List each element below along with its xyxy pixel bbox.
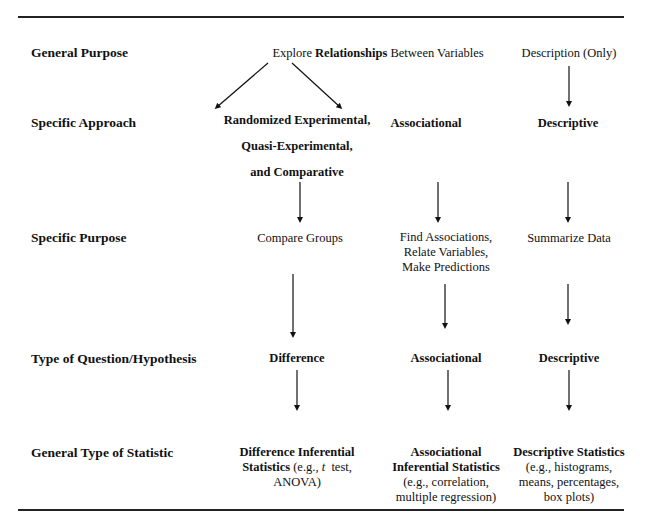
associational-statistics-text: Associational Inferential Statistics (e.… [392, 445, 500, 505]
bottom-rule [18, 509, 624, 511]
descriptive-approach-text: Descriptive [538, 115, 598, 132]
find-associations-text: Find Associations, Relate Variables, Mak… [400, 230, 492, 275]
row-label-specific-approach: Specific Approach [31, 115, 136, 131]
explore-relationships-text: Explore Relationships Between Variables [272, 45, 483, 62]
row-label-general-purpose: General Purpose [31, 45, 128, 61]
row-label-question-type: Type of Question/Hypothesis [31, 351, 197, 367]
experimental-approach-text: Randomized Experimental, Quasi-Experimen… [224, 107, 371, 185]
descriptive-question-text: Descriptive [539, 350, 599, 367]
top-rule [18, 16, 624, 18]
summarize-data-text: Summarize Data [527, 230, 611, 247]
difference-statistics-text: Difference Inferential Statistics (e.g.,… [239, 445, 354, 490]
row-label-specific-purpose: Specific Purpose [31, 230, 127, 246]
associational-approach-text: Associational [391, 115, 462, 132]
arrow-to-experimental [217, 63, 268, 107]
description-only-text: Description (Only) [522, 45, 617, 62]
row-label-statistic-type: General Type of Statistic [31, 445, 173, 461]
arrow-to-associational [292, 63, 340, 107]
difference-question-text: Difference [269, 350, 324, 367]
descriptive-statistics-text: Descriptive Statistics (e.g., histograms… [513, 445, 624, 505]
compare-groups-text: Compare Groups [257, 230, 343, 247]
associational-question-text: Associational [411, 350, 482, 367]
